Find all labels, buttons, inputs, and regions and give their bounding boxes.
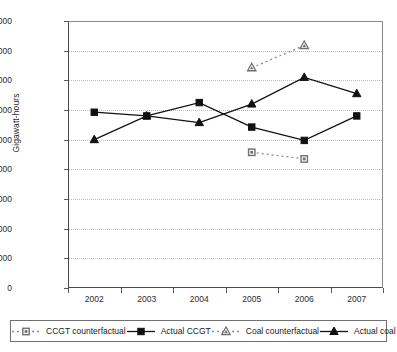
y-axis-tick-label: 20,000 (0, 253, 12, 263)
gridline (69, 199, 382, 200)
y-axis-tick-label: 140,000 (0, 75, 12, 85)
plot-area (68, 21, 383, 288)
x-axis-tick-label: 2004 (169, 294, 229, 304)
x-axis-tick-mark (121, 288, 122, 293)
x-axis-tick-label: 2007 (327, 294, 387, 304)
legend-item-label: Actual coal (352, 326, 396, 336)
legend-marker-icon (211, 326, 241, 337)
legend-item[interactable]: CCGT counterfactual (11, 326, 126, 337)
legend-item-label: Actual CCGT (159, 326, 211, 336)
x-axis-tick-mark (383, 288, 384, 293)
legend-marker-icon (126, 326, 156, 337)
x-axis-tick-mark (278, 288, 279, 293)
x-axis-tick-mark (331, 288, 332, 293)
gridline (69, 258, 382, 259)
legend-marker-icon (11, 326, 41, 337)
y-axis-tick-label: 120,000 (0, 105, 12, 115)
y-axis-tick-label: 80,000 (0, 164, 12, 174)
x-axis-tick-label: 2002 (64, 294, 124, 304)
legend-item[interactable]: Actual CCGT (126, 326, 211, 337)
y-axis-title: Gigawatt-hours (11, 63, 21, 183)
legend-item[interactable]: Actual coal (319, 326, 396, 337)
gridline (69, 51, 382, 52)
x-axis-tick-label: 2005 (222, 294, 282, 304)
data-point-triangle-filled (330, 327, 338, 334)
gridline (69, 80, 382, 81)
legend-item-label: CCGT counterfactual (44, 326, 126, 336)
x-axis-tick-label: 2003 (117, 294, 177, 304)
gridline (69, 140, 382, 141)
chart-container: Gigawatt-hours 020,00040,00060,00080,000… (0, 0, 397, 352)
legend-item-label: Coal counterfactual (244, 326, 319, 336)
legend-marker-icon (319, 326, 349, 337)
gridline (69, 229, 382, 230)
x-axis-tick-label: 2006 (274, 294, 334, 304)
x-axis-tick-mark (226, 288, 227, 293)
data-point-square-filled (137, 328, 143, 334)
y-axis-tick-label: 60,000 (0, 194, 12, 204)
data-point-triangle-open (222, 327, 230, 334)
chart-legend: CCGT counterfactualActual CCGTCoal count… (10, 320, 387, 342)
y-axis-tick-label: 160,000 (0, 46, 12, 56)
y-axis-tick-label: 40,000 (0, 224, 12, 234)
legend-item[interactable]: Coal counterfactual (211, 326, 319, 337)
x-axis-tick-mark (68, 288, 69, 293)
gridline (69, 169, 382, 170)
y-axis-tick-label: 0 (0, 283, 12, 293)
x-axis-tick-mark (173, 288, 174, 293)
data-point-square-open (23, 328, 29, 334)
y-axis-tick-label: 100,000 (0, 135, 12, 145)
gridline (69, 110, 382, 111)
y-axis-tick-label: 180,000 (0, 16, 12, 26)
